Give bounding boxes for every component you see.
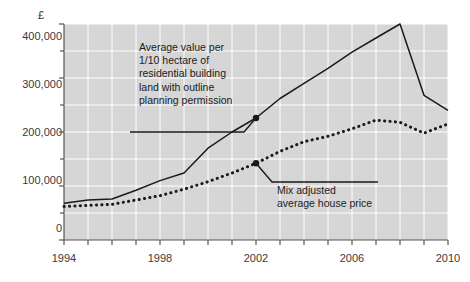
chart-figure: £ 400,000 300,000 200,000 100,000 0 1994… [0,0,470,282]
x-axis-ticks [64,240,448,245]
plot-area [0,0,470,282]
annotation-land-value-text: Average value per 1/10 hectare of reside… [139,41,232,107]
annotation-house-price-text: Mix adjusted average house price [277,184,372,210]
